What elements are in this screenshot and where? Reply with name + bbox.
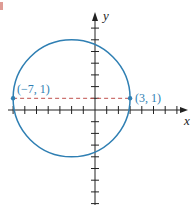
x-axis-label: x [183, 113, 190, 128]
plot-shapes: (−7, 1)(3, 1) [11, 40, 161, 157]
axes [8, 12, 188, 205]
data-point [128, 96, 132, 100]
point-label: (−7, 1) [17, 82, 50, 96]
y-axis-label: y [101, 8, 109, 23]
circle-graph: (−7, 1)(3, 1) x y [0, 0, 196, 208]
point-label: (3, 1) [135, 91, 161, 105]
y-axis-arrow-icon [92, 12, 98, 21]
data-point [11, 96, 15, 100]
